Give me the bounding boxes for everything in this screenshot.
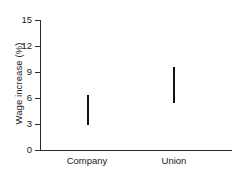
- y-tick-label-6: 6: [6, 93, 32, 103]
- y-axis-title: Wage increase (%): [13, 19, 24, 149]
- y-tick-label-9: 9: [6, 67, 32, 77]
- wage-increase-range-chart: Wage increase (%) 15 12 9 6 3 0 Company …: [0, 0, 236, 176]
- y-axis-line: [40, 20, 41, 151]
- range-line-company: [87, 95, 89, 124]
- y-tick-mark-15: [35, 20, 40, 21]
- y-tick-mark-0: [35, 150, 40, 151]
- y-tick-mark-6: [35, 98, 40, 99]
- y-tick-mark-9: [35, 72, 40, 73]
- y-tick-mark-3: [35, 124, 40, 125]
- x-axis-label-company: Company: [52, 156, 122, 166]
- x-axis-label-union: Union: [139, 156, 209, 166]
- y-tick-label-15: 15: [6, 15, 32, 25]
- y-tick-label-12: 12: [6, 41, 32, 51]
- y-tick-label-3: 3: [6, 119, 32, 129]
- y-tick-mark-12: [35, 46, 40, 47]
- range-line-union: [173, 67, 175, 103]
- y-tick-label-0: 0: [6, 145, 32, 155]
- x-axis-line: [40, 150, 232, 151]
